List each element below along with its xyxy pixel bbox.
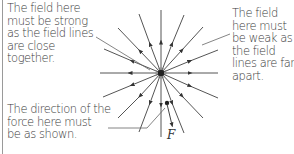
annotation-line: together. — [7, 52, 93, 65]
force-direction-annotation: The direction of the force here must be … — [7, 103, 111, 141]
leader-lines — [96, 34, 230, 128]
diagram-frame: The field here must be strong as the fie… — [0, 0, 294, 154]
force-label: F — [167, 128, 175, 142]
annotation-line: The direction of the — [7, 103, 111, 116]
annotation-line: The field here — [7, 2, 93, 15]
strong-field-annotation: The field here must be strong as the fie… — [7, 2, 93, 65]
annotation-line: as the field lines — [7, 27, 93, 40]
force-arrow — [167, 104, 172, 125]
annotation-line: The field — [232, 7, 294, 20]
annotation-line: apart. — [232, 70, 294, 83]
weak-field-annotation: The field here must be weak as the field… — [232, 7, 294, 83]
annotation-line: be weak as — [232, 32, 294, 45]
annotation-line: be as shown. — [7, 128, 111, 141]
point-charge — [158, 70, 164, 76]
